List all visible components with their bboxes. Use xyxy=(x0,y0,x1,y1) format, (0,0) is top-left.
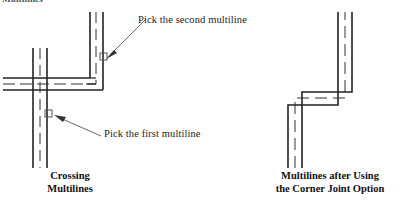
caption-right-line2: the Corner Joint Option xyxy=(255,183,405,196)
leader-line-first xyxy=(54,115,101,136)
figure-multiline-corner-joint: Multilines xyxy=(0,0,405,201)
leader-line-second xyxy=(106,19,146,59)
caption-left-line1: Crossing xyxy=(0,170,140,183)
caption-right-line1: Multilines after Using xyxy=(255,170,405,183)
caption-left-diagram: Crossing Multilines xyxy=(0,170,140,195)
callout-pick-first-multiline: Pick the first multiline xyxy=(104,128,201,139)
caption-left-line2: Multilines xyxy=(0,183,140,196)
callout-pick-second-multiline: Pick the second multiline xyxy=(138,14,247,25)
vertical-multiline xyxy=(33,48,47,168)
right-diagram-corner-joint xyxy=(288,12,352,168)
pick-box-first-multiline[interactable] xyxy=(45,110,52,117)
caption-right-diagram: Multilines after Using the Corner Joint … xyxy=(255,170,405,195)
left-diagram-crossing-multilines xyxy=(3,12,146,168)
